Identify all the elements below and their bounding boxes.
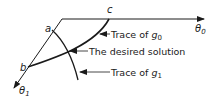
trace-g1-curve — [52, 30, 78, 80]
trace-g1-label: Trace of g1 — [110, 67, 162, 80]
point-a-label: a — [45, 23, 51, 34]
trace-g0-label: Trace of g0 — [110, 29, 162, 42]
theta0-label: θ0 — [195, 23, 206, 36]
point-c-label: c — [107, 4, 113, 15]
point-b-label: b — [20, 62, 26, 73]
desired-solution-label: The desired solution — [88, 46, 185, 57]
theta1-label: θ1 — [19, 85, 30, 98]
diagram-canvas: a b c θ0 θ1 Trace of g0 The desired solu… — [0, 0, 217, 98]
trace-g0-curve — [28, 19, 109, 67]
theta1-axis — [14, 19, 62, 88]
